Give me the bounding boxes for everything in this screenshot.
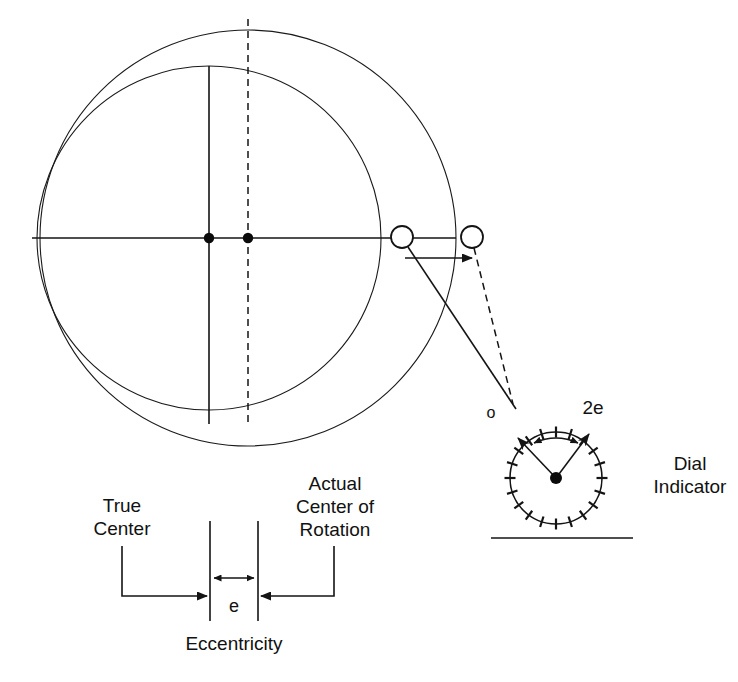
dial-tick <box>589 448 598 454</box>
true-center-leader <box>122 546 207 596</box>
label-eccentricity: Eccentricity <box>144 632 324 655</box>
probe-tip-circle-far <box>461 226 483 248</box>
label-true-center: True Center <box>60 494 184 540</box>
dial-tick <box>514 502 523 508</box>
actual-center-dot <box>243 233 253 243</box>
dial-needle-min <box>518 438 556 478</box>
label-dial-zero: o <box>482 403 500 423</box>
actual-center-leader <box>261 546 334 596</box>
true-center-dot <box>204 233 214 243</box>
dial-tick <box>589 502 598 508</box>
dial-tick <box>580 511 586 520</box>
projection-line-solid <box>408 247 516 409</box>
label-dial-indicator: Dial Indicator <box>642 452 738 498</box>
probe-tip-circle-near <box>391 226 413 248</box>
projection-line-dashed <box>474 248 513 404</box>
label-eccentricity-symbol: e <box>222 596 246 618</box>
figure-canvas: True Center Actual Center of Rotation Ec… <box>0 0 738 682</box>
dial-hub-dot <box>550 472 562 484</box>
dial-tick <box>526 436 532 445</box>
diagram-svg <box>0 0 738 682</box>
dial-tick <box>514 448 523 454</box>
dial-sweep-arrow <box>534 438 578 443</box>
dial-tick <box>526 511 532 520</box>
label-actual-center-of-rotation: Actual Center of Rotation <box>272 472 398 542</box>
probe-contact-group <box>391 226 516 409</box>
label-dial-two-e: 2e <box>578 396 608 419</box>
dial-indicator-group <box>491 427 633 539</box>
